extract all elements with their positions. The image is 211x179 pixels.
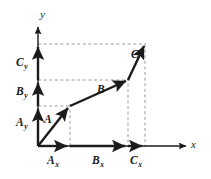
vector-components-figure: y x Cy By Ay Ax Bx Cx A B C — [0, 0, 211, 179]
x-component-label-bx-base: B — [92, 154, 100, 166]
x-component-label-ax-base: A — [47, 154, 55, 166]
y-component-label-ay-base: A — [16, 116, 24, 128]
vector-a — [38, 108, 68, 146]
x-component-label-bx: Bx — [92, 155, 103, 167]
x-component-label-ax-sub: x — [55, 160, 59, 169]
y-component-label-cy: Cy — [16, 57, 27, 69]
x-component-label-ax: Ax — [47, 155, 58, 167]
y-component-label-by: By — [16, 86, 27, 98]
x-axis-label: x — [191, 139, 196, 150]
vector-diagram-canvas — [0, 0, 211, 179]
y-component-label-by-sub: y — [24, 91, 27, 100]
vector-label-b: B — [97, 84, 105, 96]
y-component-label-cy-base: C — [16, 56, 24, 68]
y-component-label-ay-sub: y — [24, 122, 27, 131]
vector-label-c: C — [131, 49, 139, 61]
x-component-label-cx-base: C — [130, 154, 138, 166]
x-component-label-cx-sub: x — [138, 160, 142, 169]
x-component-label-bx-sub: x — [100, 160, 104, 169]
y-axis-label: y — [40, 9, 45, 20]
y-component-label-cy-sub: y — [24, 62, 27, 71]
x-component-label-cx: Cx — [130, 155, 141, 167]
y-component-label-by-base: B — [16, 85, 24, 97]
y-component-label-ay: Ay — [16, 117, 27, 129]
vector-label-a: A — [44, 114, 52, 126]
